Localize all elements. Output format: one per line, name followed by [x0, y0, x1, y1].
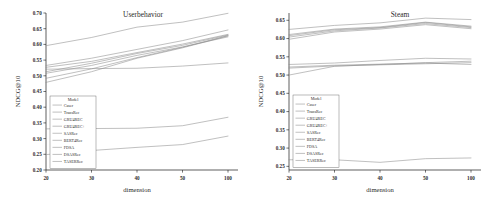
- x-tick-label: 50: [422, 175, 428, 181]
- figure-container: 0.200.250.300.350.400.450.500.550.600.65…: [0, 0, 485, 199]
- series-line-sasrec: [46, 34, 228, 67]
- line-chart-userbehavior: 0.200.250.300.350.400.450.500.550.600.65…: [0, 0, 243, 199]
- y-tick-label: 0.40: [275, 108, 284, 114]
- legend[interactable]: ModelCaserTransRecGRU4RECGRU4REC+SASRecB…: [50, 96, 96, 169]
- y-tick-label: 0.25: [275, 163, 284, 169]
- legend-label-transrec[interactable]: TransRec: [64, 110, 80, 115]
- y-tick-label: 0.55: [33, 57, 42, 63]
- y-tick-label: 0.45: [275, 90, 284, 96]
- x-tick-label: 30: [89, 175, 95, 181]
- y-axis-ticks: 0.250.300.350.400.450.500.550.600.65: [275, 17, 288, 169]
- x-tick-label: 50: [180, 175, 186, 181]
- legend-label-transrec[interactable]: TransRec: [306, 109, 322, 114]
- x-tick-label: 20: [286, 175, 292, 181]
- x-axis-title: dimension: [366, 186, 394, 193]
- x-axis-ticks: 20304050100: [286, 170, 475, 181]
- legend-title: Model: [68, 97, 80, 102]
- legend-label-bert4rec[interactable]: BERT4Rec: [64, 138, 83, 143]
- y-tick-label: 0.45: [33, 88, 42, 94]
- chart-title: Steam: [390, 10, 409, 19]
- x-axis-ticks: 20304050100: [43, 170, 232, 181]
- legend-label-taserrec[interactable]: TASERRec: [64, 159, 83, 164]
- legend-label-gru4rec[interactable]: GRU4REC: [64, 117, 83, 122]
- y-tick-label: 0.65: [33, 26, 42, 32]
- y-tick-label: 0.70: [33, 10, 42, 16]
- legend-label-dsasrec[interactable]: DSASRec: [306, 151, 323, 156]
- legend-label-gru4rec[interactable]: GRU4REC: [306, 116, 325, 121]
- x-tick-label: 100: [467, 175, 475, 181]
- y-tick-label: 0.35: [33, 120, 42, 126]
- legend-label-taserrec[interactable]: TASERRec: [306, 158, 325, 163]
- x-tick-label: 40: [377, 175, 383, 181]
- y-tick-label: 0.20: [33, 167, 42, 173]
- y-axis-title: NDCG@10: [14, 75, 21, 107]
- y-axis-ticks: 0.200.250.300.350.400.450.500.550.600.65…: [33, 10, 46, 173]
- x-tick-label: 20: [43, 175, 49, 181]
- legend-label-sasrec[interactable]: SASRec: [64, 131, 78, 136]
- y-tick-label: 0.60: [275, 35, 284, 41]
- x-tick-label: 30: [331, 175, 337, 181]
- y-tick-label: 0.50: [33, 73, 42, 79]
- legend[interactable]: ModelCaserTransRecGRU4RECGRU4REC+SASRecB…: [293, 95, 339, 168]
- x-axis-title: dimension: [123, 186, 151, 193]
- chart-title: Userbehavior: [123, 10, 163, 19]
- chart-panel-left: 0.200.250.300.350.400.450.500.550.600.65…: [0, 0, 243, 199]
- y-tick-label: 0.25: [33, 151, 42, 157]
- legend-label-gru4rec+[interactable]: GRU4REC+: [64, 124, 86, 129]
- legend-title: Model: [310, 96, 322, 101]
- y-tick-label: 0.65: [275, 17, 284, 23]
- legend-label-sasrec[interactable]: SASRec: [306, 130, 320, 135]
- y-tick-label: 0.30: [33, 136, 42, 142]
- legend-label-caser[interactable]: Caser: [306, 102, 316, 107]
- y-axis-title: NDCG@10: [257, 75, 264, 107]
- legend-label-caser[interactable]: Caser: [64, 103, 74, 108]
- y-tick-label: 0.60: [33, 41, 42, 47]
- legend-label-gru4rec+[interactable]: GRU4REC+: [306, 123, 328, 128]
- line-chart-steam: 0.250.300.350.400.450.500.550.600.65NDCG…: [243, 0, 485, 199]
- legend-label-dsasrec[interactable]: DSASRec: [64, 152, 81, 157]
- legend-label-bert4rec[interactable]: BERT4Rec: [306, 137, 325, 142]
- chart-panel-right: 0.250.300.350.400.450.500.550.600.65NDCG…: [243, 0, 485, 199]
- x-tick-label: 40: [134, 175, 140, 181]
- y-tick-label: 0.40: [33, 104, 42, 110]
- legend-label-fdsa[interactable]: FDSA: [64, 145, 75, 150]
- series-line-transrec: [46, 36, 228, 79]
- y-tick-label: 0.50: [275, 72, 284, 78]
- y-tick-label: 0.35: [275, 127, 284, 133]
- series-line-bert4rec: [46, 30, 228, 65]
- y-tick-label: 0.30: [275, 145, 284, 151]
- x-tick-label: 100: [224, 175, 232, 181]
- legend-label-fdsa[interactable]: FDSA: [306, 144, 317, 149]
- series-line-gru4rec+: [289, 22, 471, 34]
- y-tick-label: 0.55: [275, 54, 284, 60]
